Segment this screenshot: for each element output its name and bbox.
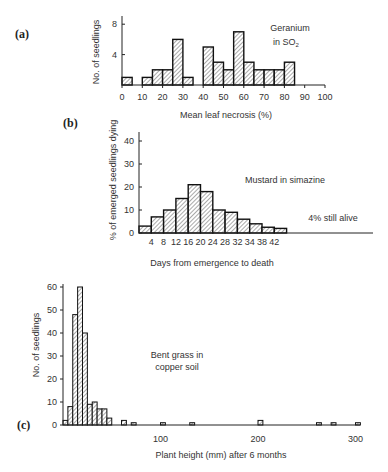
chart-c-annotation-2: copper soil <box>155 362 199 372</box>
chart-a-ytick: 8 <box>112 19 117 29</box>
chart-b-ytick: 0 <box>129 228 134 238</box>
chart-b-xtick: 16 <box>183 237 193 247</box>
chart-b-xtick: 12 <box>171 237 181 247</box>
chart-b-xtick: 28 <box>220 237 230 247</box>
chart-c-ytick: 10 <box>47 397 57 407</box>
chart-c-bar <box>87 404 92 425</box>
chart-a-bars <box>122 32 295 85</box>
chart-c-bar <box>102 409 107 425</box>
chart-c-bar <box>122 420 127 425</box>
panel-label-a: (a) <box>15 27 29 41</box>
chart-c-bars <box>63 287 360 425</box>
chart-b-bar <box>225 212 237 233</box>
chart-c-ylabel: No. of seedlings <box>31 312 41 377</box>
chart-c-bar <box>78 287 83 425</box>
chart-b-bar <box>151 217 163 233</box>
chart-b-bars <box>139 185 287 233</box>
chart-c-bar <box>92 402 97 425</box>
panel-label-c: (c) <box>17 418 30 432</box>
chart-a-xtick: 30 <box>178 92 188 102</box>
chart-c-ytick: 60 <box>47 282 57 292</box>
panel-label-b: (b) <box>63 116 78 130</box>
chart-a-xtick: 80 <box>279 92 289 102</box>
chart-a-xtick: 60 <box>239 92 249 102</box>
chart-a-xtick: 10 <box>137 92 147 102</box>
chart-a-bar <box>142 77 152 85</box>
chart-a-annotation-2: in SO2 <box>273 37 300 48</box>
chart-c-xlabel: Plant height (mm) after 6 months <box>155 450 287 460</box>
chart-a-xtick: 20 <box>158 92 168 102</box>
chart-b-bar <box>176 199 188 234</box>
chart-a-bar <box>284 62 294 85</box>
chart-b-xtick: 24 <box>208 237 218 247</box>
chart-c-ytick: 40 <box>47 328 57 338</box>
chart-b-bar <box>188 185 200 233</box>
chart-c-bar <box>73 315 78 425</box>
chart-c-xtick: 200 <box>250 434 265 444</box>
chart-b-ytick: 20 <box>124 182 134 192</box>
chart-a-bar <box>274 70 284 85</box>
chart-b-bar <box>250 224 262 233</box>
chart-c: (c) No. of seedlings 0102030405060100200… <box>17 282 363 460</box>
chart-a-bar <box>234 32 244 85</box>
chart-a-ylabel: No. of seedlings <box>91 19 101 84</box>
chart-c-annotation-1: Bent grass in <box>151 350 204 360</box>
chart-a-xtick: 50 <box>218 92 228 102</box>
chart-a-xlabel: Mean leaf necrosis (%) <box>180 110 272 120</box>
chart-a-bar <box>183 77 193 85</box>
chart-b-ytick: 40 <box>124 136 134 146</box>
chart-b-note: 4% still alive <box>308 213 358 223</box>
chart-a-xtick: 0 <box>119 92 124 102</box>
chart-b-bar <box>237 219 249 233</box>
chart-c-ytick: 30 <box>47 351 57 361</box>
chart-a-ytick: 4 <box>112 50 117 60</box>
chart-c-ytick: 0 <box>52 420 57 430</box>
chart-b-xtick: 4 <box>149 237 154 247</box>
chart-c-ytick: 20 <box>47 374 57 384</box>
chart-a-xtick: 40 <box>198 92 208 102</box>
chart-a-bar <box>224 70 234 85</box>
chart-c-bar <box>258 420 263 425</box>
chart-a: (a) No. of seedlings 0102030405060708090… <box>15 16 333 120</box>
chart-b-xtick: 32 <box>232 237 242 247</box>
chart-c-bar <box>107 418 112 425</box>
chart-a-annotation-1: Geranium <box>270 23 310 33</box>
chart-b-xtick: 34 <box>245 237 255 247</box>
figure: (a) No. of seedlings 0102030405060708090… <box>0 0 388 472</box>
chart-b-bar <box>201 192 213 233</box>
chart-b: (b) % of emerged seedlings dying 0102030… <box>63 116 373 268</box>
chart-a-bar <box>244 62 254 85</box>
chart-b-ytick: 30 <box>124 159 134 169</box>
chart-c-bar <box>68 407 73 425</box>
chart-b-xtick: 38 <box>257 237 267 247</box>
chart-b-bar <box>139 226 151 233</box>
chart-a-bar <box>163 70 173 85</box>
chart-a-bar <box>203 47 213 85</box>
chart-c-bar <box>97 409 102 425</box>
chart-a-bar <box>173 39 183 85</box>
chart-c-ytick: 50 <box>47 305 57 315</box>
chart-a-bar <box>152 70 162 85</box>
chart-a-xtick: 90 <box>300 92 310 102</box>
chart-a-xtick: 70 <box>259 92 269 102</box>
chart-b-xtick: 42 <box>269 237 279 247</box>
chart-b-bar <box>274 228 286 233</box>
chart-b-xtick: 8 <box>161 237 166 247</box>
chart-a-bar <box>213 62 223 85</box>
chart-b-bar <box>213 210 225 233</box>
chart-b-xlabel: Days from emergence to death <box>150 258 274 268</box>
chart-a-xtick: 100 <box>317 92 332 102</box>
chart-c-xtick: 300 <box>348 434 363 444</box>
chart-a-bar <box>254 70 264 85</box>
chart-b-ytick: 10 <box>124 205 134 215</box>
chart-c-xtick: 100 <box>153 434 168 444</box>
chart-b-xtick: 20 <box>195 237 205 247</box>
chart-a-bar <box>122 77 132 85</box>
chart-b-bar <box>262 227 274 233</box>
chart-b-ylabel: % of emerged seedlings dying <box>108 120 118 241</box>
chart-a-bar <box>264 70 274 85</box>
chart-c-bar <box>83 333 88 425</box>
chart-b-annotation: Mustard in simazine <box>245 175 325 185</box>
chart-c-bar <box>63 420 68 425</box>
chart-b-bar <box>164 210 176 233</box>
